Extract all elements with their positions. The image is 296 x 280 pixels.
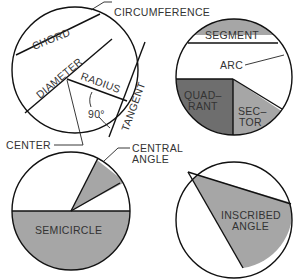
- tangent-label: TANGENT: [119, 80, 148, 133]
- circumference-leader: [91, 2, 112, 10]
- diameter-label: DIAMETER: [34, 55, 85, 101]
- quadrant-label-2: RANT: [188, 100, 218, 112]
- chord-label: CHORD: [30, 26, 72, 52]
- diagram-circle-basics: CIRCUMFERENCE CHORD DIAMETER RADIUS 90° …: [6, 2, 210, 151]
- angle-arrow-up: [90, 92, 92, 107]
- right-angle-label: 90°: [88, 108, 105, 120]
- center-leader: [54, 80, 83, 145]
- diagram-semicircle: CENTRAL ANGLE SEMICIRCLE: [10, 142, 183, 276]
- circle-parts-diagram: CIRCUMFERENCE CHORD DIAMETER RADIUS 90° …: [0, 0, 296, 280]
- segment-label: SEGMENT: [205, 29, 259, 41]
- semicircle-fill: [10, 211, 135, 276]
- central-angle-leader: [104, 148, 130, 161]
- center-label: CENTER: [6, 139, 51, 151]
- diagram-segment-quadrant: SEGMENT ARC QUAD– RANT SEC– TOR: [170, 14, 296, 150]
- sector-label-2: TOR: [239, 116, 262, 128]
- central-angle-label-2: ANGLE: [132, 153, 169, 165]
- arc-leader: [245, 55, 284, 65]
- arc-label: ARC: [220, 59, 243, 71]
- circumference-label: CIRCUMFERENCE: [114, 6, 210, 18]
- inscribed-label-2: ANGLE: [232, 220, 269, 232]
- diagram-inscribed-angle: INSCRIBED ANGLE: [176, 162, 293, 278]
- semicircle-label: SEMICIRCLE: [35, 224, 102, 236]
